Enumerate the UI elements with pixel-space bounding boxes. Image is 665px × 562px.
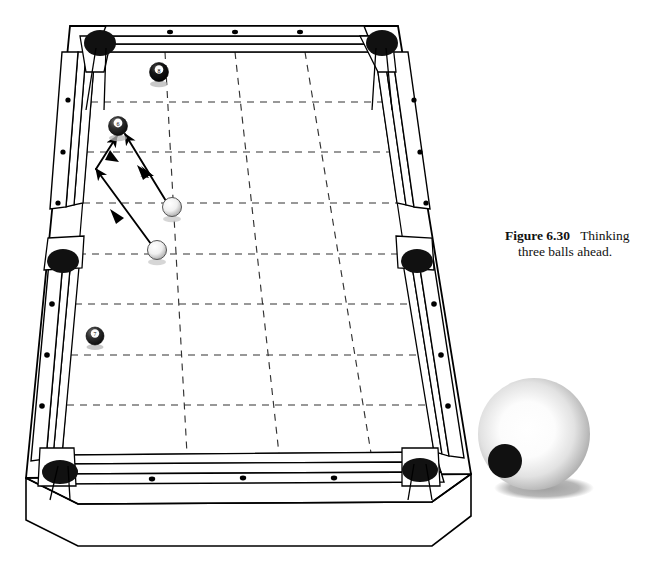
ball-7: 7	[86, 327, 104, 350]
ball-6-number: 6	[117, 121, 120, 127]
sight-dot	[431, 301, 437, 307]
sight-dot	[149, 477, 155, 482]
sight-dot	[331, 476, 337, 481]
pocket-bottom-right	[402, 458, 438, 482]
cue-ball-lower	[148, 241, 167, 266]
sight-dot	[445, 403, 451, 409]
sight-dot	[49, 301, 55, 307]
figure-label: Figure 6.30	[505, 228, 570, 243]
sight-dot	[60, 149, 65, 154]
pocket-top-left	[84, 30, 116, 56]
sight-dot	[55, 200, 60, 205]
cue-ball-upper	[163, 198, 182, 223]
pool-table-illustration: 8 6 7	[0, 0, 480, 562]
sight-dot	[232, 30, 238, 34]
sight-dot	[65, 97, 70, 102]
pocket-side-right	[401, 249, 433, 273]
sight-dot	[44, 352, 50, 358]
sight-dot	[423, 200, 428, 205]
sight-dot	[438, 352, 444, 358]
figure-caption-spacer	[570, 228, 580, 243]
ball-6: 6	[109, 117, 128, 142]
sight-dot	[240, 476, 246, 481]
sight-dot	[297, 30, 303, 34]
contact-point-spot	[488, 444, 522, 478]
sight-dot	[167, 30, 173, 34]
sight-dot	[411, 97, 416, 102]
figure-6-30: 8 6 7 Figure 6.30 Thinking three balls a…	[0, 0, 665, 562]
sight-dot	[39, 403, 45, 409]
figure-caption: Figure 6.30 Thinking three balls ahead.	[505, 228, 657, 260]
pocket-top-right	[366, 30, 398, 56]
ball-8-number: 8	[158, 68, 161, 74]
sight-dot	[417, 149, 422, 154]
ball-7-number: 7	[94, 331, 97, 337]
ball-8: 8	[150, 63, 169, 88]
pocket-bottom-left	[42, 460, 78, 484]
pocket-side-left	[47, 249, 79, 273]
cue-ball-detail-illustration	[468, 360, 618, 505]
